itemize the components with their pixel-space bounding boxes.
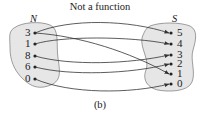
domain-element: 6: [25, 61, 31, 72]
domain-element: 1: [25, 38, 31, 49]
diagram: Not a function N S: [0, 0, 200, 115]
codomain-element: 0: [177, 78, 183, 89]
domain-element: 0: [25, 73, 31, 84]
figure-caption: (b): [0, 99, 200, 110]
